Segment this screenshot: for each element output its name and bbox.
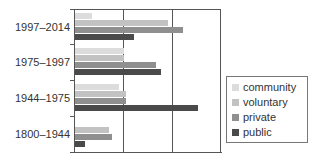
legend-item-community: community [232, 80, 296, 94]
bar-community [75, 13, 92, 19]
legend-label: public [243, 126, 272, 138]
y-tick [70, 9, 74, 10]
bar-private [75, 62, 156, 68]
category-label: 1800–1944 [0, 128, 70, 140]
y-tick [70, 44, 74, 45]
bar-public [75, 34, 134, 40]
bar-community [75, 48, 124, 54]
legend: community voluntary private public [226, 76, 308, 143]
legend-swatch [232, 114, 239, 121]
category-label: 1975–1997 [0, 56, 70, 68]
bar-private [75, 134, 112, 140]
category-label: 1997–2014 [0, 21, 70, 33]
legend-label: community [243, 81, 296, 93]
category-label: 1944–1975 [0, 92, 70, 104]
bar-voluntary [75, 20, 168, 26]
bar-voluntary [75, 127, 109, 133]
legend-item-public: public [232, 125, 272, 139]
legend-swatch [232, 99, 239, 106]
y-tick [70, 152, 74, 153]
legend-label: private [243, 111, 276, 123]
legend-swatch [232, 129, 239, 136]
bar-public [75, 69, 161, 75]
y-tick [70, 116, 74, 117]
bar-private [75, 98, 126, 104]
legend-item-private: private [232, 110, 276, 124]
bar-voluntary [75, 91, 126, 97]
bar-voluntary [75, 55, 124, 61]
bar-public [75, 141, 85, 147]
legend-item-voluntary: voluntary [232, 95, 288, 109]
legend-swatch [232, 84, 239, 91]
bar-private [75, 27, 183, 33]
x-axis [74, 152, 222, 153]
y-tick [70, 80, 74, 81]
bar-community [75, 84, 119, 90]
legend-label: voluntary [243, 96, 288, 108]
bar-public [75, 105, 198, 111]
